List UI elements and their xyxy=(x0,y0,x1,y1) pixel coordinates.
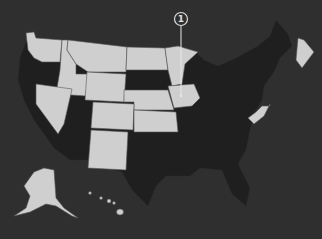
state-kansas[interactable] xyxy=(134,110,178,132)
state-north-dakota[interactable] xyxy=(126,47,168,70)
state-wyoming[interactable] xyxy=(85,72,126,102)
state-hawaii[interactable] xyxy=(89,192,124,216)
state-maine[interactable] xyxy=(296,38,314,68)
state-colorado[interactable] xyxy=(91,102,134,130)
marker-label: 1 xyxy=(178,14,184,24)
us-map: 1 xyxy=(0,0,322,239)
state-alaska[interactable] xyxy=(14,168,78,218)
state-new-mexico[interactable] xyxy=(88,130,128,170)
